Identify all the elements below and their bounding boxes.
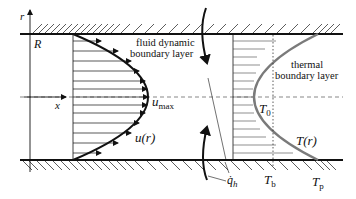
- thermal-profile-lines: [233, 41, 293, 153]
- heat-arrow-bottom: [203, 127, 207, 180]
- x-axis-label: x: [54, 99, 60, 111]
- Tb-label: Tb: [264, 172, 276, 189]
- thermal-label-line1: thermal: [291, 59, 323, 70]
- qh-leader-2: [208, 176, 226, 181]
- thermal-profile-label: T(r): [296, 133, 317, 148]
- T0-label: T0: [259, 101, 271, 118]
- bottom-wall-hatching: [22, 160, 336, 170]
- velocity-profile-label: u(r): [135, 130, 155, 145]
- umax-label: umax: [152, 94, 174, 111]
- heat-flux-label: q̇h: [227, 173, 238, 189]
- R-label: R: [33, 37, 42, 51]
- heat-arrow-top: [202, 8, 207, 63]
- fluid-dynamic-label-line2: boundary layer: [130, 48, 194, 59]
- r-axis-label: r: [20, 10, 25, 22]
- Tp-label: Tp: [312, 174, 324, 191]
- heat-flux-line: [208, 78, 226, 160]
- fluid-dynamic-label-line1: fluid dynamic: [136, 37, 195, 48]
- thermal-label-line2: boundary layer: [275, 70, 339, 81]
- pipe-flow-diagram: r R x fluid dynamic boundary layer umax …: [0, 0, 356, 199]
- top-wall-hatching: [32, 24, 340, 34]
